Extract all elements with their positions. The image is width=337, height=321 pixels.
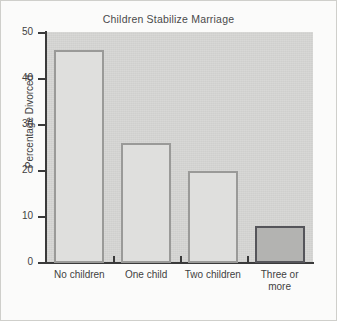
bar-three-or-more bbox=[255, 226, 305, 263]
x-category-label-line: Three or bbox=[246, 269, 313, 281]
x-category-label-no-children: No children bbox=[46, 269, 113, 281]
y-tick-label-0: 0 bbox=[0, 256, 33, 267]
y-tick-mark-30 bbox=[38, 124, 45, 126]
y-tick-mark-20 bbox=[38, 170, 45, 172]
x-tick-mark-1 bbox=[113, 256, 115, 264]
bar-no-children bbox=[54, 50, 104, 263]
x-category-label-two-children: Two children bbox=[180, 269, 247, 281]
x-tick-mark-2 bbox=[180, 256, 182, 264]
x-category-label-line: No children bbox=[46, 269, 113, 281]
x-category-label-three-or-more: Three ormore bbox=[246, 269, 313, 293]
x-tick-mark-3 bbox=[247, 256, 249, 264]
y-tick-mark-10 bbox=[38, 216, 45, 218]
y-tick-mark-0 bbox=[38, 262, 45, 264]
y-axis-line bbox=[45, 31, 47, 264]
x-category-label-line: One child bbox=[113, 269, 180, 281]
bar-one-child bbox=[121, 143, 171, 263]
chart-title: Children Stabilize Marriage bbox=[1, 13, 336, 25]
y-axis-label: Percentage Divorced bbox=[24, 42, 35, 202]
y-tick-label-50: 50 bbox=[0, 26, 33, 37]
y-tick-mark-50 bbox=[38, 32, 45, 34]
bar-two-children bbox=[188, 171, 238, 263]
y-tick-label-10: 10 bbox=[0, 210, 33, 221]
x-category-label-one-child: One child bbox=[113, 269, 180, 281]
x-category-label-line: more bbox=[246, 281, 313, 293]
chart-figure: Children Stabilize Marriage 0 10 20 30 4… bbox=[0, 0, 337, 321]
x-category-label-line: Two children bbox=[180, 269, 247, 281]
y-tick-mark-40 bbox=[38, 78, 45, 80]
